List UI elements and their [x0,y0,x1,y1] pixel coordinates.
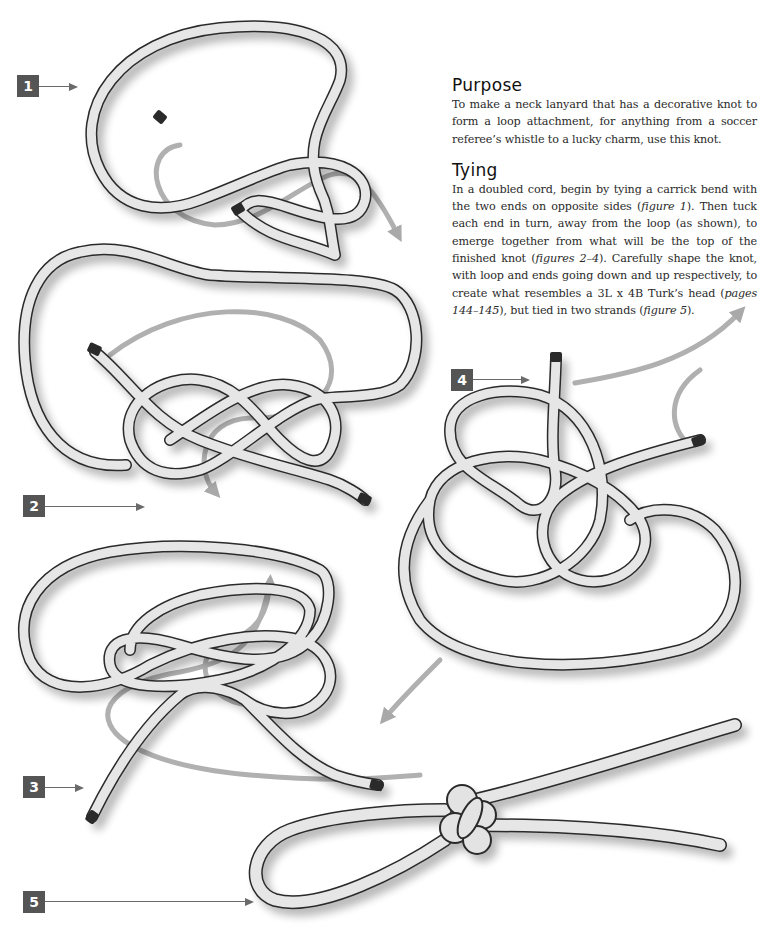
figure-3-rope [24,546,378,817]
figure-2-rope [24,249,416,500]
figure-5-pointer [45,901,252,902]
figure-3-pointer [45,787,82,788]
figure-4-cord-ends [550,352,706,448]
tying-heading: Tying [452,160,757,180]
tying-text: ). [687,304,695,317]
figure-5-rope [256,725,735,902]
figure-reference: figure 1 [641,200,686,213]
figure-4-pointer [473,379,528,380]
purpose-paragraph: To make a neck lanyard that has a decora… [452,96,757,148]
figure-4-rope [404,358,735,665]
figure-5-label: 5 [23,891,45,913]
figure-3-label: 3 [23,776,45,798]
instruction-text: Purpose To make a neck lanyard that has … [452,75,757,319]
figure-2-pointer [45,506,143,507]
figure-reference: figures 2–4 [535,252,598,265]
tying-text: ), but tied in two strands ( [499,304,643,317]
tying-paragraph: In a doubled cord, begin by tying a carr… [452,181,757,319]
figure-1-rope [91,26,365,255]
figure-4-label: 4 [451,369,473,391]
figure-1-pointer [39,86,76,87]
figure-reference: figure 5 [643,304,687,317]
figure-2-label: 2 [23,495,45,517]
purpose-heading: Purpose [452,75,757,95]
figure-1-label: 1 [17,75,39,97]
